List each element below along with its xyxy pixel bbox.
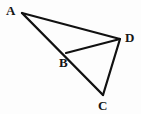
geometry-figure: A B C D xyxy=(0,0,141,114)
segment-a-d xyxy=(22,13,120,39)
vertex-label-a: A xyxy=(6,4,15,17)
vertex-label-c: C xyxy=(98,99,107,112)
vertex-label-d: D xyxy=(125,31,134,44)
geometry-canvas xyxy=(0,0,141,114)
segment-b-d xyxy=(66,39,120,53)
vertex-label-b: B xyxy=(59,56,68,69)
segment-c-d xyxy=(103,39,120,95)
segment-a-c xyxy=(22,13,103,95)
